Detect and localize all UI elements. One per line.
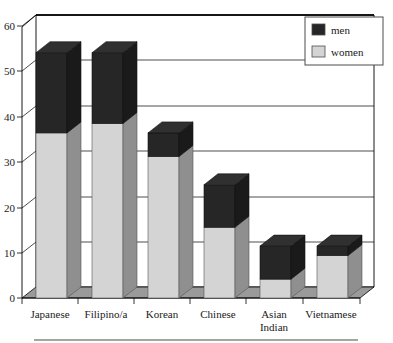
- legend-swatch-women: [312, 46, 325, 57]
- category-label-indian: Indian: [260, 321, 289, 333]
- legend[interactable]: men women: [305, 17, 383, 65]
- ytick-label-20: 20: [4, 202, 16, 214]
- ytick-20: [22, 197, 36, 208]
- bar-men-side-filipino-a: [123, 42, 137, 124]
- category-label-japanese: Japanese: [30, 308, 69, 320]
- bar-women-front-korean: [148, 157, 179, 299]
- ytick-label-0: 0: [10, 292, 16, 304]
- bar-women-front-chinese: [204, 227, 235, 298]
- category-label-chinese: Chinese: [200, 308, 236, 320]
- legend-label-women: women: [331, 46, 364, 58]
- ytick-60: [22, 15, 36, 26]
- bar-group-vietnamese[interactable]: [317, 235, 362, 298]
- bar-women-front-asian-indian: [260, 279, 291, 298]
- bar-women-front-vietnamese: [317, 256, 348, 298]
- bar-women-side-chinese: [235, 216, 249, 298]
- ytick-label-10: 10: [4, 247, 16, 259]
- ytick-label-30: 30: [4, 156, 16, 168]
- bar-men-front-vietnamese: [317, 246, 348, 255]
- category-label-asian: Asian: [261, 308, 287, 320]
- ytick-label-50: 50: [4, 65, 16, 77]
- legend-label-men: men: [331, 24, 350, 36]
- bar-women-side-korean: [179, 146, 193, 299]
- bar-men-front-japanese: [36, 53, 67, 133]
- bar-women-side-japanese: [67, 122, 81, 298]
- ytick-label-60: 60: [4, 20, 16, 32]
- x-axis-category-labels: Japanese Filipino/a Korean Chinese Asian…: [30, 308, 356, 333]
- x-axis-ticks: [22, 298, 360, 304]
- bar-group-korean[interactable]: [148, 122, 193, 298]
- ytick-40: [22, 106, 36, 117]
- bar-men-side-japanese: [67, 42, 81, 133]
- bar-men-front-korean: [148, 133, 179, 157]
- bar-group-asian-indian[interactable]: [260, 235, 305, 298]
- bar-women-front-japanese: [36, 133, 67, 298]
- category-label-filipino: Filipino/a: [85, 308, 128, 320]
- ytick-10: [22, 242, 36, 253]
- bar-men-front-filipino-a: [92, 53, 123, 124]
- bar-women-side-filipino-a: [123, 112, 137, 298]
- chart-container: 60 50 40 30 20 10 0 Japanese Filipino/a …: [0, 0, 393, 343]
- bar-group-japanese[interactable]: [36, 42, 81, 298]
- bar-group-filipino-a[interactable]: [92, 42, 137, 298]
- ytick-50: [22, 60, 36, 71]
- bar-men-front-asian-indian: [260, 246, 291, 279]
- y-axis-ticks: [17, 15, 36, 298]
- legend-swatch-men: [312, 24, 325, 35]
- bar-chart: 60 50 40 30 20 10 0 Japanese Filipino/a …: [0, 0, 393, 343]
- category-label-vietnamese: Vietnamese: [305, 308, 356, 320]
- ytick-30: [22, 151, 36, 162]
- bar-group-chinese[interactable]: [204, 174, 249, 298]
- bar-men-front-chinese: [204, 185, 235, 227]
- category-label-korean: Korean: [146, 308, 179, 320]
- bar-women-front-filipino-a: [92, 123, 123, 298]
- ytick-label-40: 40: [4, 111, 16, 123]
- y-axis-tick-labels: 60 50 40 30 20 10 0: [4, 20, 16, 304]
